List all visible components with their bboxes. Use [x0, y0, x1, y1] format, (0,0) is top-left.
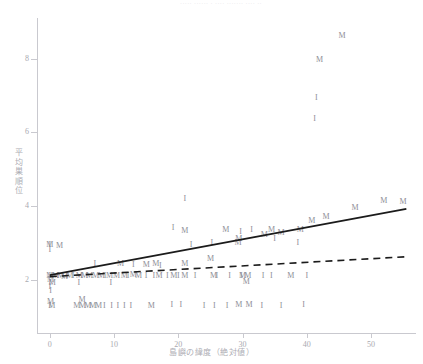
data-point-i: I — [226, 302, 229, 310]
x-tick — [178, 333, 179, 338]
data-point-i: I — [280, 302, 283, 310]
data-point-i: I — [56, 272, 59, 280]
x-tick — [243, 333, 244, 338]
data-point-i: I — [117, 302, 120, 310]
data-point-i: I — [228, 272, 231, 280]
data-point-m: M — [297, 226, 304, 234]
data-point-m: M — [155, 272, 162, 280]
data-point-i: I — [190, 241, 193, 249]
data-point-m: M — [143, 261, 150, 269]
data-point-i: I — [260, 302, 263, 310]
data-point-i: I — [123, 302, 126, 310]
data-point-m: M — [56, 242, 63, 250]
data-point-i: I — [315, 94, 318, 102]
y-tick — [31, 280, 37, 281]
data-point-m: M — [243, 278, 250, 286]
data-point-i: I — [240, 272, 243, 280]
data-point-i: I — [296, 239, 299, 247]
data-point-m: M — [117, 260, 124, 268]
data-point-m: M — [400, 198, 407, 206]
y-tick-label: 6 — [16, 128, 29, 136]
data-point-i: I — [273, 235, 276, 243]
data-point-m: M — [323, 213, 330, 221]
y-axis-label-char: 順 — [13, 177, 25, 187]
data-point-m: M — [261, 231, 268, 239]
data-point-m: M — [351, 204, 358, 212]
data-point-m: M — [380, 197, 387, 205]
data-point-m: M — [181, 260, 188, 268]
data-point-m: M — [287, 272, 294, 280]
data-point-m: M — [181, 272, 188, 280]
data-point-i: I — [81, 272, 84, 280]
y-tick-label: 4 — [16, 202, 29, 210]
data-point-i: I — [49, 302, 52, 310]
data-point-i: I — [103, 302, 106, 310]
data-point-i: I — [129, 302, 132, 310]
y-tick-label: 8 — [16, 55, 29, 63]
x-axis-line — [37, 333, 416, 334]
data-point-i: I — [145, 272, 148, 280]
data-point-m: M — [113, 272, 120, 280]
data-point-i: I — [180, 301, 183, 309]
data-point-i: I — [213, 302, 216, 310]
data-point-i: I — [166, 272, 169, 280]
y-axis-label-char: 位 — [13, 186, 25, 196]
data-point-i: I — [72, 272, 75, 280]
data-point-m: M — [245, 301, 252, 309]
data-point-i: I — [159, 262, 162, 270]
data-point-i: I — [77, 279, 80, 287]
x-axis-label: 島嶼の緯度（絶対値） — [0, 346, 423, 357]
data-point-m: M — [235, 301, 242, 309]
data-point-i: I — [305, 272, 308, 280]
data-point-i: I — [177, 272, 180, 280]
y-axis-label-char: 均 — [13, 158, 25, 168]
data-point-i: I — [171, 301, 174, 309]
x-tick — [50, 333, 51, 338]
data-point-i: I — [216, 272, 219, 280]
data-point-i: I — [127, 272, 130, 280]
data-point-i: I — [65, 272, 68, 280]
data-point-m: M — [339, 32, 346, 40]
data-point-i: I — [262, 272, 265, 280]
data-point-i: I — [183, 195, 186, 203]
data-point-i: I — [210, 239, 213, 247]
data-point-m: M — [278, 229, 285, 237]
scatter-plot: 2468 01020304050 平均巣順位 島嶼の緯度（絶対値） MMMMMM… — [0, 0, 423, 364]
data-point-m: M — [235, 239, 242, 247]
data-point-m: M — [222, 226, 229, 234]
solid-fit — [50, 209, 407, 275]
data-point-i: I — [194, 272, 197, 280]
data-point-i: I — [313, 115, 316, 123]
data-point-m: M — [207, 255, 214, 263]
x-tick — [371, 333, 372, 338]
data-point-i: I — [172, 224, 175, 232]
data-point-m: M — [135, 272, 142, 280]
x-tick — [307, 333, 308, 338]
data-point-i: I — [49, 287, 52, 295]
data-point-i: I — [104, 272, 107, 280]
data-point-i: I — [302, 301, 305, 309]
data-point-i: I — [153, 272, 156, 280]
data-point-m: M — [95, 302, 102, 310]
y-axis-line — [37, 18, 38, 333]
y-axis-label-char: 平 — [13, 148, 25, 158]
data-point-i: I — [132, 261, 135, 269]
data-point-m: M — [148, 302, 155, 310]
data-point-m: M — [308, 217, 315, 225]
data-point-m: M — [268, 226, 275, 234]
data-point-i: I — [110, 302, 113, 310]
data-point-m: M — [181, 227, 188, 235]
data-point-i: I — [93, 260, 96, 268]
data-point-m: M — [316, 56, 323, 64]
data-point-i: I — [250, 226, 253, 234]
data-point-i: I — [270, 272, 273, 280]
y-axis-label: 平均巣順位 — [13, 148, 25, 196]
y-axis-label-char: 巣 — [13, 167, 25, 177]
data-point-i: I — [239, 228, 242, 236]
data-point-i: I — [49, 246, 52, 254]
y-tick-label: 2 — [16, 276, 29, 284]
x-tick — [114, 333, 115, 338]
y-tick — [31, 132, 37, 133]
figure-canvas: ····· ······ · ···· ······· ···· ·· 2468… — [0, 0, 423, 364]
y-tick — [31, 59, 37, 60]
